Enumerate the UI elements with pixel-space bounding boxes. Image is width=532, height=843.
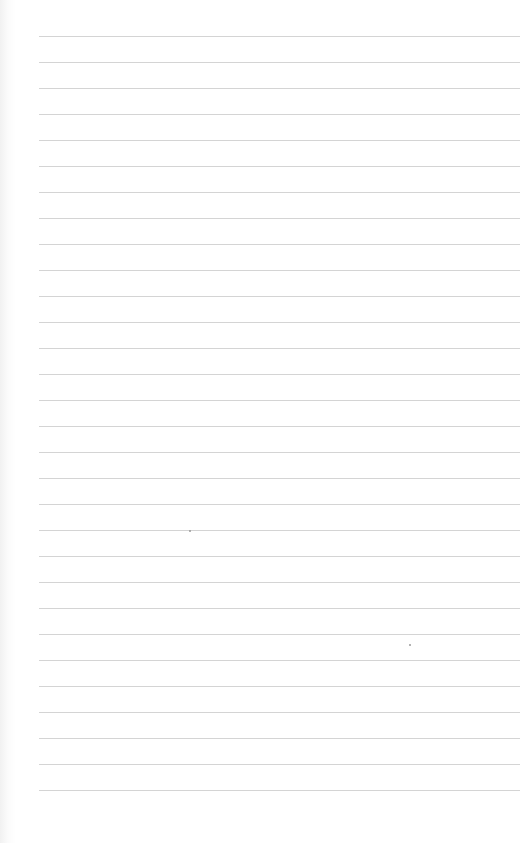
ruled-line bbox=[39, 452, 520, 453]
ruled-line bbox=[39, 374, 520, 375]
ruled-line bbox=[39, 36, 520, 37]
ruled-line bbox=[39, 88, 520, 89]
ruled-line bbox=[39, 114, 520, 115]
ruled-line bbox=[39, 738, 520, 739]
ruled-line bbox=[39, 530, 520, 531]
ruled-line bbox=[39, 166, 520, 167]
lined-paper-sheet bbox=[0, 0, 532, 843]
ruled-line bbox=[39, 140, 520, 141]
ruled-line bbox=[39, 504, 520, 505]
ruled-line bbox=[39, 348, 520, 349]
ruled-line bbox=[39, 582, 520, 583]
ruled-line bbox=[39, 764, 520, 765]
ruled-line bbox=[39, 478, 520, 479]
ruled-line bbox=[39, 608, 520, 609]
ruled-line bbox=[39, 62, 520, 63]
ruled-line bbox=[39, 400, 520, 401]
ruled-line bbox=[39, 790, 520, 791]
ruled-line bbox=[39, 244, 520, 245]
ruled-line bbox=[39, 556, 520, 557]
ruled-line bbox=[39, 192, 520, 193]
paper-speck bbox=[409, 644, 411, 646]
ruled-line bbox=[39, 634, 520, 635]
ruled-line bbox=[39, 426, 520, 427]
ruled-line bbox=[39, 218, 520, 219]
ruled-line bbox=[39, 270, 520, 271]
paper-speck bbox=[189, 530, 191, 532]
ruled-line bbox=[39, 660, 520, 661]
ruled-line bbox=[39, 296, 520, 297]
ruled-line bbox=[39, 322, 520, 323]
ruled-line bbox=[39, 712, 520, 713]
ruled-line bbox=[39, 686, 520, 687]
